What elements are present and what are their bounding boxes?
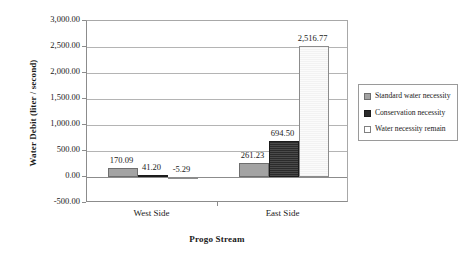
x-axis-title: Progo Stream [86, 234, 348, 244]
legend-item-label: Conservation necessity [375, 108, 445, 118]
legend-swatch-icon [364, 110, 371, 117]
x-axis-category-label: West Side [86, 208, 217, 218]
y-axis-tick-label: 500.00 [2, 145, 80, 154]
legend-swatch-icon [364, 93, 371, 100]
plot-area [86, 20, 348, 202]
bar [138, 175, 168, 177]
bar [168, 177, 198, 179]
y-axis-tick-label: 2,500.00 [2, 41, 80, 50]
legend-item: Conservation necessity [364, 108, 453, 118]
bar-value-label: 2,516.77 [289, 34, 337, 43]
bar-value-label: 694.50 [259, 129, 307, 138]
bar-value-label: -5.29 [158, 165, 206, 174]
legend-item: Water necessity remain [364, 124, 453, 134]
y-axis-tick-label: 3,000.00 [2, 15, 80, 24]
x-axis-category-label: East Side [217, 208, 348, 218]
bar [239, 163, 269, 177]
y-axis-tick-label: -500.00 [2, 197, 80, 206]
legend-item: Standard water necessity [364, 91, 453, 101]
legend-item-label: Water necessity remain [375, 124, 446, 134]
legend-item-label: Standard water necessity [375, 91, 451, 101]
y-axis-tick-mark [82, 202, 86, 203]
y-axis-tick-label: 1,000.00 [2, 119, 80, 128]
gridline [87, 177, 347, 178]
y-axis-tick-label: 0.00 [2, 171, 80, 180]
x-axis-tick-mark [217, 202, 218, 206]
legend-swatch-icon [364, 126, 371, 133]
y-axis-tick-label: 2,000.00 [2, 67, 80, 76]
y-axis-tick-label: 1,500.00 [2, 93, 80, 102]
bar-chart: Water Debit (liter / second) 3,000.002,5… [0, 0, 461, 256]
legend: Standard water necessityConservation nec… [358, 84, 458, 141]
bar-value-label: 261.23 [229, 151, 277, 160]
bar [299, 46, 329, 177]
